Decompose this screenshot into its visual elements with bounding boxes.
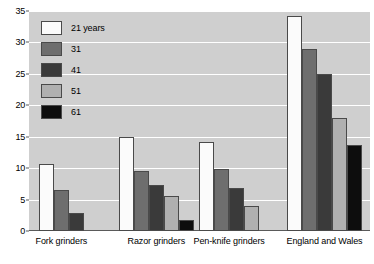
bar-chart: 05101520253035 21 years31415161 Fork gri… — [0, 0, 374, 264]
bar — [229, 188, 244, 231]
legend-swatch — [41, 84, 62, 98]
legend-swatch — [41, 21, 62, 35]
y-axis-tick-label: 0 — [20, 226, 25, 236]
bar — [287, 16, 302, 231]
bar — [149, 185, 164, 231]
x-axis-category-label: Fork grinders — [36, 236, 88, 246]
legend-swatch — [41, 63, 62, 77]
bar — [39, 164, 54, 231]
bar-group — [287, 11, 362, 231]
bar-group — [199, 11, 259, 231]
legend-item: 31 — [41, 39, 137, 58]
bar — [317, 74, 332, 231]
bar — [164, 196, 179, 231]
legend-item: 21 years — [41, 18, 137, 37]
bar — [302, 49, 317, 231]
y-axis-tick-label: 10 — [15, 163, 25, 173]
bar — [332, 118, 347, 231]
x-axis-category-label: England and Wales — [287, 236, 363, 246]
y-axis: 05101520253035 — [0, 0, 29, 231]
x-axis-category-label: Razor grinders — [128, 236, 186, 246]
legend-label: 61 — [71, 107, 81, 117]
y-axis-tick-label: 30 — [15, 37, 25, 47]
legend-item: 41 — [41, 60, 137, 79]
bar — [179, 220, 194, 231]
y-axis-tick-label: 20 — [15, 100, 25, 110]
legend-label: 51 — [71, 86, 81, 96]
legend-item: 51 — [41, 81, 137, 100]
y-axis-tick-label: 15 — [15, 132, 25, 142]
y-axis-tick-label: 25 — [15, 69, 25, 79]
legend-label: 21 years — [71, 23, 105, 33]
chart-legend: 21 years31415161 — [41, 18, 137, 123]
legend-swatch — [41, 42, 62, 56]
bar — [244, 206, 259, 231]
bar — [119, 137, 134, 231]
legend-item: 61 — [41, 102, 137, 121]
x-axis-category-label: Pen-knife grinders — [194, 236, 265, 246]
bar — [134, 171, 149, 231]
y-axis-tick-label: 5 — [20, 195, 25, 205]
bar — [214, 169, 229, 231]
legend-label: 31 — [71, 44, 81, 54]
legend-swatch — [41, 105, 62, 119]
y-axis-tick-label: 35 — [15, 6, 25, 16]
bar — [199, 142, 214, 231]
bar — [69, 213, 84, 231]
bar — [54, 190, 69, 231]
bar — [347, 145, 362, 231]
legend-label: 41 — [71, 65, 81, 75]
